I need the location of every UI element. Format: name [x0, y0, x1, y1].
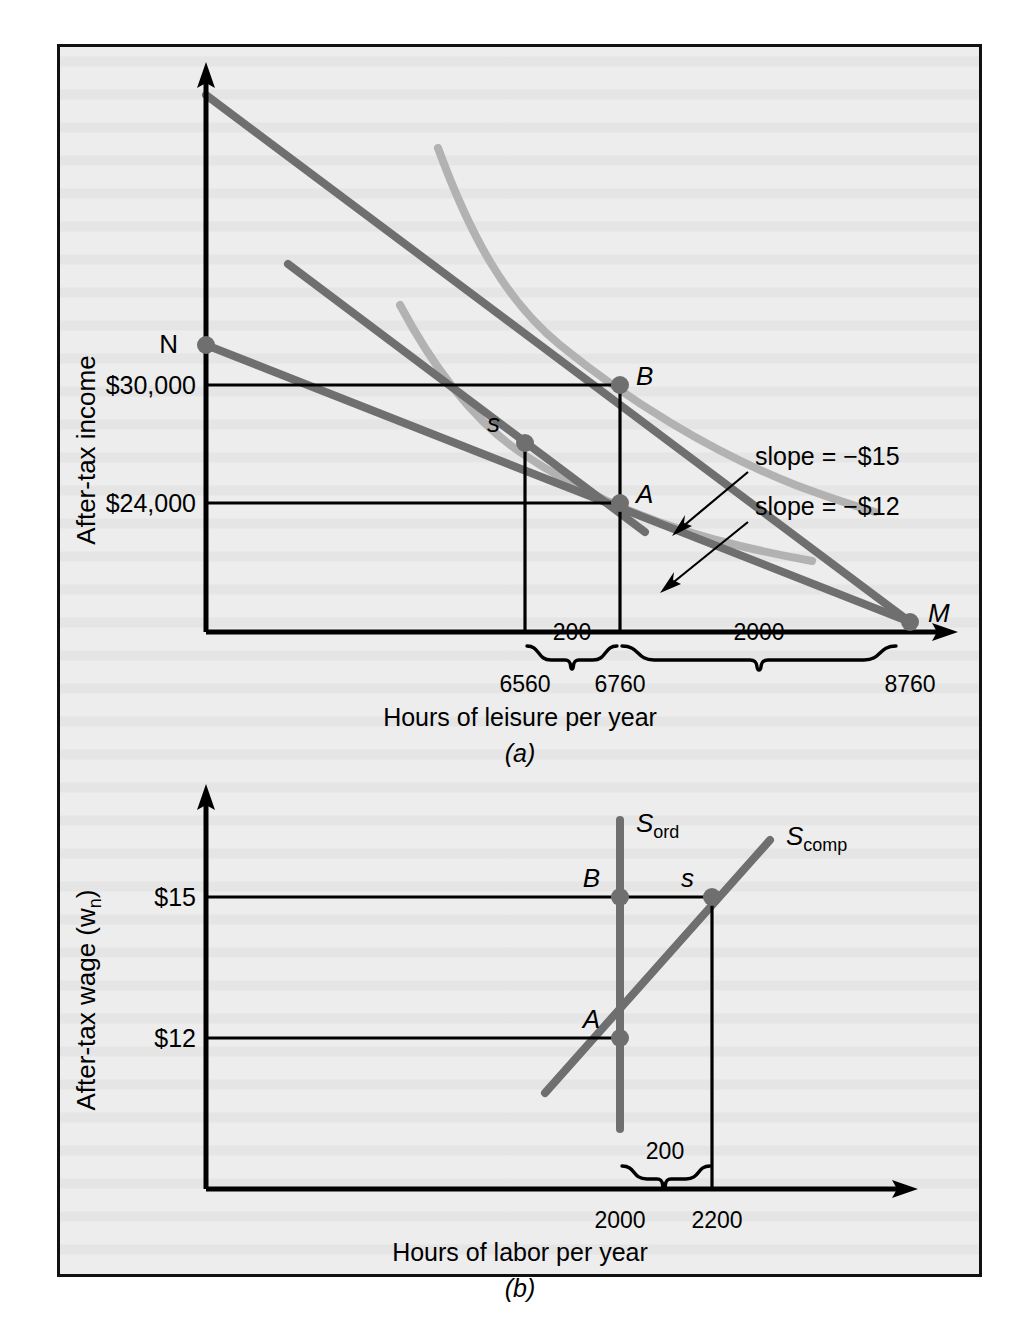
panel-b-y-axis-title-main: After-tax wage (w [71, 908, 101, 1111]
label-point-A-panel-b: A [581, 1004, 600, 1034]
label-supply-compensated-sub: comp [803, 835, 847, 855]
ytick-12: $12 [154, 1024, 196, 1052]
panel-b-x-axis-title: Hours of labor per year [392, 1238, 648, 1266]
xtick-2200: 2200 [691, 1207, 742, 1233]
panel-b-chart: B s A $15 $12 After-tax wage (wn) Sord S… [0, 0, 1031, 1331]
panel-b-y-axis-title-tail: ) [71, 890, 101, 899]
supply-curve-compensated [545, 840, 770, 1093]
point-A-panel-b [611, 1029, 629, 1047]
page-canvas: N s B A M $30,000 $24,000 After-tax inco… [0, 0, 1031, 1331]
brace-200-label-panel-b: 200 [646, 1138, 684, 1164]
ytick-15: $15 [154, 883, 196, 911]
xtick-2000: 2000 [594, 1207, 645, 1233]
label-supply-compensated-base: S [786, 821, 804, 851]
label-supply-ordinary: Sord [636, 808, 679, 842]
panel-b-label: (b) [505, 1274, 536, 1302]
panel-b-y-axis-title-sub: n [85, 898, 105, 908]
point-B-panel-b [611, 888, 629, 906]
label-supply-compensated: Scomp [786, 821, 847, 855]
panel-b-y-axis-title: After-tax wage (wn) [71, 890, 105, 1111]
label-point-B-panel-b: B [583, 863, 600, 893]
label-supply-ordinary-sub: ord [653, 822, 679, 842]
brace-200-panel-b [622, 1166, 710, 1188]
point-s-panel-b [703, 888, 721, 906]
label-supply-ordinary-base: S [636, 808, 654, 838]
label-point-s-panel-b: s [681, 863, 694, 893]
